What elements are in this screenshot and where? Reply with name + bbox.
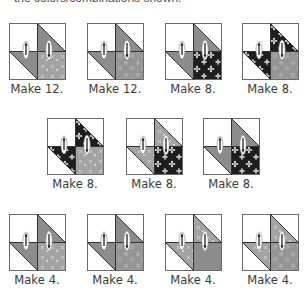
make-count-label: Make 12. (75, 82, 155, 96)
cropped-instruction-text: the colors/combinations shown. (14, 0, 181, 5)
make-count-label: Make 8. (35, 177, 115, 191)
quilt-unit-block (165, 23, 223, 80)
make-count-label: Make 4. (75, 273, 155, 287)
make-count-label: Make 12. (0, 82, 77, 96)
quilt-unit-block (47, 118, 105, 175)
make-count-label: Make 8. (114, 177, 194, 191)
make-count-label: Make 4. (0, 273, 77, 287)
quilt-unit-block (203, 118, 261, 175)
make-count-label: Make 8. (191, 177, 271, 191)
quilt-unit-block (165, 214, 223, 271)
make-count-label: Make 8. (153, 82, 233, 96)
quilt-unit-block (126, 118, 184, 175)
quilt-unit-block (87, 23, 145, 80)
make-count-label: Make 8. (230, 82, 304, 96)
quilt-unit-block (242, 23, 300, 80)
quilt-unit-block (9, 23, 67, 80)
make-count-label: Make 4. (153, 273, 233, 287)
make-count-label: Make 4. (230, 273, 304, 287)
quilt-unit-block (242, 214, 300, 271)
quilt-unit-block (87, 214, 145, 271)
quilt-unit-block (9, 214, 67, 271)
